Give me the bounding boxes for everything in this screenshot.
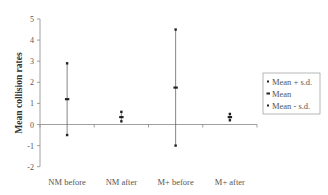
y-tick-label: 0 [30,121,34,130]
x-category-label: NM after [106,177,138,187]
y-axis-label: Mean collision rates [14,52,24,134]
y-tick-label: 3 [30,57,34,66]
y-tick-label: -1 [27,142,34,151]
error-bar-group [173,28,177,146]
mean-marker [228,116,232,118]
legend-item-mean-plus-sd: Mean + s.d. [267,77,312,87]
mean-marker [119,116,123,118]
mean-plus-sd-marker [229,113,231,115]
legend: Mean + s.d. Mean Mean - s.d. [263,73,320,114]
x-category-label: M+ after [215,177,245,187]
legend-label: Mean + s.d. [272,77,312,87]
square-marker-icon [267,81,269,83]
error-bar-group [65,62,69,136]
legend-label: Mean [272,89,292,99]
mean-minus-sd-marker [229,119,231,121]
error-bar-group [119,111,123,123]
mean-marker [65,98,69,100]
y-tick-label: -2 [27,163,34,172]
dash-marker-icon [267,93,271,95]
x-category-label: M+ before [158,177,194,187]
y-tick-label: 1 [30,99,34,108]
mean-minus-sd-marker [66,134,68,136]
y-tick-label: 2 [30,78,34,87]
mean-minus-sd-marker [120,120,122,122]
plot-area [65,28,232,146]
mean-plus-sd-marker [66,62,68,64]
square-marker-icon [267,105,269,107]
mean-plus-sd-marker [120,111,122,113]
x-axis: NM beforeNM afterM+ beforeM+ after [40,125,257,188]
mean-minus-sd-marker [174,144,176,146]
y-axis: 543210-1-2 [27,15,40,172]
legend-label: Mean - s.d. [272,101,310,111]
mean-plus-sd-marker [174,28,176,30]
y-tick-label: 4 [30,36,34,45]
x-category-label: NM before [48,177,86,187]
chart: Mean collision rates 543210-1-2 NM befor… [0,0,328,195]
legend-item-mean-minus-sd: Mean - s.d. [267,101,310,111]
mean-marker [173,86,177,88]
error-bar-group [228,113,232,122]
y-tick-label: 5 [30,15,34,24]
